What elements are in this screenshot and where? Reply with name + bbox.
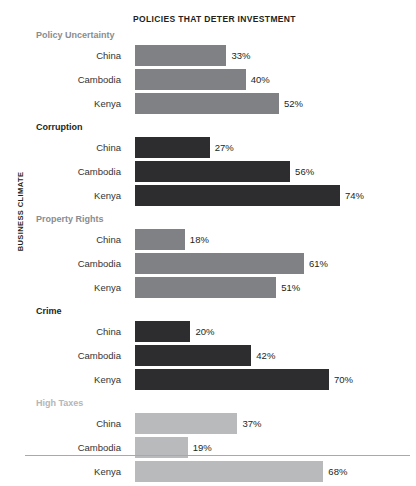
bar-value-label: 51% [276, 277, 300, 298]
bar [135, 161, 290, 182]
bar-value-label: 27% [210, 137, 234, 158]
chart-title: POLICIES THAT DETER INVESTMENT [133, 14, 296, 24]
bar-track: 56% [135, 161, 412, 182]
bar-track: 61% [135, 253, 412, 274]
bar-track: 27% [135, 137, 412, 158]
bar-group: High TaxesChina37%Cambodia19%Kenya68% [0, 396, 416, 482]
bar-group: CorruptionChina27%Cambodia56%Kenya74% [0, 120, 416, 206]
bar-value-label: 74% [340, 185, 364, 206]
bar-track: 51% [135, 277, 412, 298]
bar-category-label: Kenya [0, 369, 128, 390]
bar [135, 185, 340, 206]
bar-row: China20% [0, 321, 416, 342]
bar-category-label: China [0, 137, 128, 158]
bottom-divider [25, 455, 410, 456]
bar [135, 321, 190, 342]
bar-value-label: 56% [290, 161, 314, 182]
bar-track: 18% [135, 229, 412, 250]
bar-value-label: 40% [246, 69, 270, 90]
bar-category-label: China [0, 229, 128, 250]
bar-track: 42% [135, 345, 412, 366]
bar-category-label: Cambodia [0, 69, 128, 90]
bar-row: Kenya70% [0, 369, 416, 390]
bar-row: Cambodia40% [0, 69, 416, 90]
plot-area: Policy UncertaintyChina33%Cambodia40%Ken… [0, 28, 416, 486]
bar-track: 74% [135, 185, 412, 206]
bar-group: CrimeChina20%Cambodia42%Kenya70% [0, 304, 416, 390]
bar [135, 69, 246, 90]
bar-row: Kenya68% [0, 461, 416, 482]
bar-value-label: 52% [279, 93, 303, 114]
bar-category-label: Kenya [0, 185, 128, 206]
bar-category-label: Kenya [0, 461, 128, 482]
bar-row: China33% [0, 45, 416, 66]
bar-track: 40% [135, 69, 412, 90]
group-header-label: Property Rights [0, 212, 416, 226]
bar-value-label: 18% [185, 229, 209, 250]
bar-track: 68% [135, 461, 412, 482]
bar [135, 369, 329, 390]
bar-category-label: Kenya [0, 277, 128, 298]
bar-value-label: 33% [226, 45, 250, 66]
bar [135, 137, 210, 158]
bar-group: Policy UncertaintyChina33%Cambodia40%Ken… [0, 28, 416, 114]
bar-row: China37% [0, 413, 416, 434]
group-header-label: Crime [0, 304, 416, 318]
bar [135, 93, 279, 114]
bar [135, 277, 276, 298]
bar-track: 70% [135, 369, 412, 390]
bar-category-label: China [0, 45, 128, 66]
bar-category-label: Kenya [0, 93, 128, 114]
bar-group: Property RightsChina18%Cambodia61%Kenya5… [0, 212, 416, 298]
bar [135, 461, 323, 482]
bar-value-label: 61% [304, 253, 328, 274]
bar [135, 229, 185, 250]
bar-track: 52% [135, 93, 412, 114]
bar-row: China27% [0, 137, 416, 158]
bar-category-label: China [0, 413, 128, 434]
bar-category-label: Cambodia [0, 161, 128, 182]
group-header-label: Policy Uncertainty [0, 28, 416, 42]
bar-value-label: 37% [237, 413, 261, 434]
bar-row: Kenya74% [0, 185, 416, 206]
bar [135, 45, 226, 66]
group-header-label: High Taxes [0, 396, 416, 410]
bar-row: Kenya52% [0, 93, 416, 114]
bar-category-label: China [0, 321, 128, 342]
bar-track: 20% [135, 321, 412, 342]
bar [135, 413, 237, 434]
bar [135, 345, 251, 366]
group-header-label: Corruption [0, 120, 416, 134]
bar-row: Cambodia61% [0, 253, 416, 274]
bar-category-label: Cambodia [0, 253, 128, 274]
bar-row: China18% [0, 229, 416, 250]
bar-value-label: 68% [323, 461, 347, 482]
bar-category-label: Cambodia [0, 345, 128, 366]
bar-row: Kenya51% [0, 277, 416, 298]
bar-value-label: 70% [329, 369, 353, 390]
bar [135, 253, 304, 274]
bar-track: 37% [135, 413, 412, 434]
bar-track: 33% [135, 45, 412, 66]
bar-value-label: 20% [190, 321, 214, 342]
bar-value-label: 42% [251, 345, 275, 366]
bar-row: Cambodia56% [0, 161, 416, 182]
bar-row: Cambodia42% [0, 345, 416, 366]
